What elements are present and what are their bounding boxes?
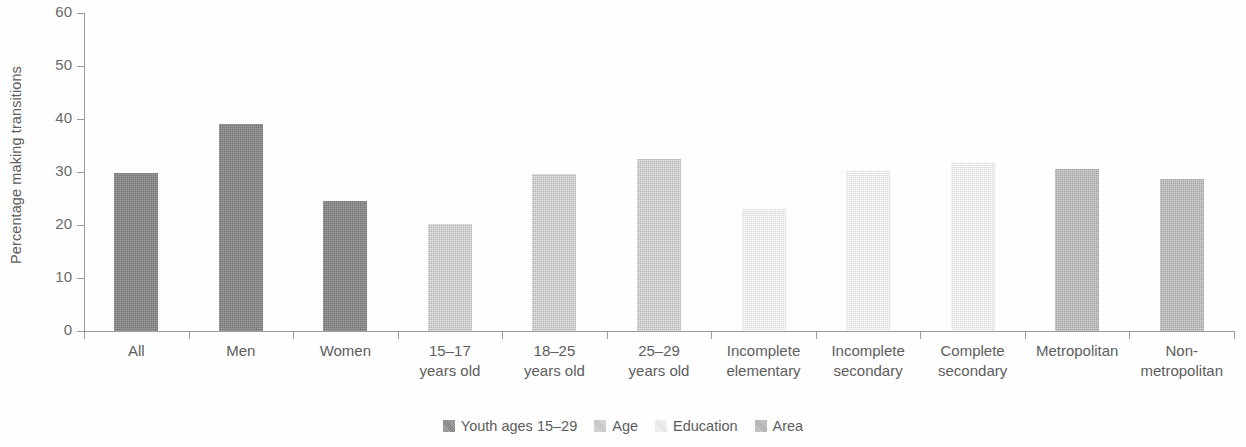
bar — [323, 201, 367, 331]
x-axis-label: 15–17 years old — [398, 341, 503, 381]
bar — [1160, 179, 1204, 331]
bar — [428, 224, 472, 331]
y-axis-tick-label: 50 — [32, 56, 72, 73]
y-axis-tick-label: 0 — [32, 321, 72, 338]
x-axis-tick — [293, 331, 294, 339]
x-axis-label: Non- metropolitan — [1129, 341, 1234, 381]
bar — [951, 162, 995, 331]
x-axis-label: All — [84, 341, 189, 361]
y-axis-title: Percentage making transitions — [8, 0, 30, 330]
x-axis-label: Metropolitan — [1025, 341, 1130, 361]
x-axis-tick — [84, 331, 85, 339]
y-axis-tick — [77, 13, 84, 14]
legend-swatch-icon — [443, 420, 455, 432]
x-axis-tick — [1129, 331, 1130, 339]
x-axis-label: Incomplete secondary — [816, 341, 921, 381]
legend-swatch-icon — [755, 420, 767, 432]
x-axis-label: Women — [293, 341, 398, 361]
legend-item[interactable]: Youth ages 15–29 — [443, 418, 577, 434]
y-axis-tick-label: 10 — [32, 268, 72, 285]
y-axis-line — [84, 13, 85, 331]
x-axis-tick — [920, 331, 921, 339]
plot-area — [84, 13, 1234, 331]
y-axis-tick-label: 60 — [32, 3, 72, 20]
y-axis-tick-label: 20 — [32, 215, 72, 232]
legend-label: Age — [612, 418, 638, 434]
y-axis-tick-label: 30 — [32, 162, 72, 179]
x-axis-tick — [816, 331, 817, 339]
legend-label: Area — [773, 418, 804, 434]
y-axis-tick-label: 40 — [32, 109, 72, 126]
x-axis-line — [84, 331, 1234, 332]
x-axis-label: Men — [189, 341, 294, 361]
x-axis-label: 18–25 years old — [502, 341, 607, 381]
legend-swatch-icon — [655, 420, 667, 432]
bar — [532, 174, 576, 331]
x-axis-tick — [711, 331, 712, 339]
y-axis-tick — [77, 331, 84, 332]
legend-label: Youth ages 15–29 — [461, 418, 577, 434]
legend-item[interactable]: Age — [594, 418, 638, 434]
y-axis-tick — [77, 119, 84, 120]
x-axis-tick — [607, 331, 608, 339]
bar — [1055, 169, 1099, 331]
x-axis-tick — [189, 331, 190, 339]
y-axis-tick — [77, 172, 84, 173]
bar — [637, 159, 681, 331]
legend-item[interactable]: Area — [755, 418, 804, 434]
legend-swatch-icon — [594, 420, 606, 432]
x-axis-tick — [1025, 331, 1026, 339]
legend-item[interactable]: Education — [655, 418, 738, 434]
y-axis-tick — [77, 225, 84, 226]
chart-legend: Youth ages 15–29AgeEducationArea — [0, 418, 1246, 434]
bar — [114, 173, 158, 331]
bar-chart: Percentage making transitions 0102030405… — [0, 0, 1246, 447]
y-axis-tick — [77, 278, 84, 279]
bar — [219, 124, 263, 331]
legend-label: Education — [673, 418, 738, 434]
x-axis-tick — [398, 331, 399, 339]
bar — [742, 209, 786, 331]
x-axis-label: 25–29 years old — [607, 341, 712, 381]
bar — [846, 170, 890, 331]
x-axis-tick — [1234, 331, 1235, 339]
y-axis-tick — [77, 66, 84, 67]
x-axis-tick — [502, 331, 503, 339]
x-axis-label: Incomplete elementary — [711, 341, 816, 381]
x-axis-label: Complete secondary — [920, 341, 1025, 381]
